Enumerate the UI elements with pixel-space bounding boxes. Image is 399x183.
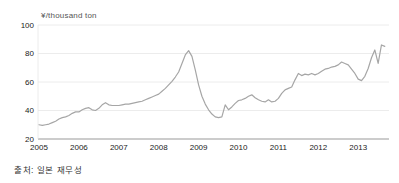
x-tick-label: 2011 [270, 143, 288, 152]
line-chart: 2040608010020052006200720082009201020112… [0, 0, 399, 183]
source-note: 출처: 일본 재무성 [14, 163, 82, 175]
x-tick-label: 2006 [70, 143, 88, 152]
x-tick-label: 2012 [309, 143, 327, 152]
x-tick-label: 2005 [30, 143, 48, 152]
chart-canvas: 2040608010020052006200720082009201020112… [0, 0, 399, 183]
y-tick-label: 40 [25, 106, 34, 115]
price-line [39, 45, 385, 126]
y-axis-unit-label: ¥/thousand ton [41, 11, 97, 20]
x-tick-label: 2009 [190, 143, 208, 152]
x-tick-label: 2007 [110, 143, 128, 152]
y-tick-label: 60 [25, 78, 34, 87]
x-tick-label: 2008 [150, 143, 168, 152]
x-tick-label: 2010 [230, 143, 248, 152]
y-tick-label: 80 [25, 49, 34, 58]
y-tick-label: 100 [21, 21, 35, 30]
x-tick-label: 2013 [349, 143, 367, 152]
